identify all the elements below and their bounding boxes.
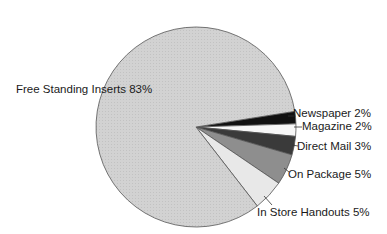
pie-chart: Newspaper 2%Magazine 2%Direct Mail 3%On … [0,0,387,234]
slice-label: Free Standing Inserts 83% [16,83,152,95]
slice-label: In Store Handouts 5% [257,206,370,218]
slice-label: Newspaper 2% [293,107,371,119]
pie-slices [96,27,296,227]
slice-label: On Package 5% [288,168,371,180]
leader-line [264,196,272,205]
slice-label: Magazine 2% [302,120,372,132]
slice-label: Direct Mail 3% [297,140,371,152]
